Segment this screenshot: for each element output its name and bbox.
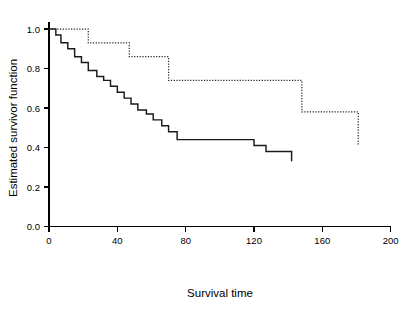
x-axis-label: Survival time <box>187 287 253 299</box>
x-tick-label: 200 <box>383 235 399 246</box>
x-tick-label: 160 <box>314 235 330 246</box>
y-tick-label: 1.0 <box>27 24 40 35</box>
x-tick-label: 120 <box>246 235 262 246</box>
x-tick-label: 80 <box>180 235 191 246</box>
survival-plot-figure: 1.0 0.8 0.6 0.4 0.2 0.0 0 40 80 120 160 … <box>0 0 412 311</box>
y-tick-label: 0.2 <box>27 182 40 193</box>
y-tick-label: 0.6 <box>27 103 40 114</box>
y-tick-label: 0.4 <box>27 142 40 153</box>
chart-svg: 1.0 0.8 0.6 0.4 0.2 0.0 0 40 80 120 160 … <box>0 0 412 311</box>
x-tick-label: 40 <box>112 235 123 246</box>
y-tick-label: 0.8 <box>27 63 40 74</box>
x-tick-label: 0 <box>46 235 51 246</box>
plot-background <box>0 0 412 311</box>
y-axis-label: Estimated survivor function <box>7 59 19 197</box>
y-tick-label: 0.0 <box>27 221 40 232</box>
